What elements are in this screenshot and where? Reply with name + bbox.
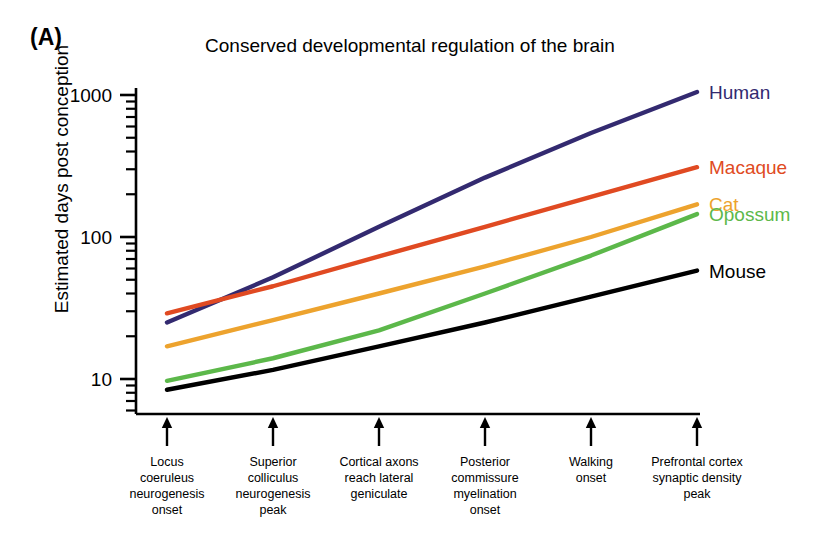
event-arrow-head	[692, 417, 702, 428]
series-label-macaque: Macaque	[709, 157, 787, 178]
event-arrow-head	[162, 417, 172, 428]
chart-plot-area: 101001000 HumanMacaqueCatOpossumMouse Lo…	[0, 0, 826, 548]
series-line-cat	[167, 204, 697, 346]
event-arrow-head	[374, 417, 384, 428]
event-label: Posteriorcommissuremyelinationonset	[451, 455, 518, 517]
y-axis-tick-label: 1000	[70, 85, 112, 106]
y-axis-tick-label: 100	[80, 227, 112, 248]
event-arrow-head	[268, 417, 278, 428]
x-axis-event-labels: LocuscoeruleusneurogenesisonsetSuperiorc…	[129, 455, 743, 517]
event-label: Superiorcolliculusneurogenesispeak	[235, 455, 310, 517]
event-label: Prefrontal cortexsynaptic densitypeak	[651, 455, 743, 501]
series-label-mouse: Mouse	[709, 261, 766, 282]
event-arrow-head	[480, 417, 490, 428]
event-label: Walkingonset	[569, 455, 613, 485]
series-label-human: Human	[709, 82, 770, 103]
figure-panel-a: (A) Conserved developmental regulation o…	[0, 0, 826, 548]
series-legend-labels: HumanMacaqueCatOpossumMouse	[709, 82, 790, 282]
series-line-opossum	[167, 214, 697, 381]
y-axis-tick-labels: 101001000	[70, 85, 112, 390]
event-label: Cortical axonsreach lateralgeniculate	[339, 455, 418, 501]
data-series-lines	[167, 92, 697, 390]
event-arrow-head	[586, 417, 596, 428]
series-label-opossum: Opossum	[709, 204, 790, 225]
event-label: Locuscoeruleusneurogenesisonset	[129, 455, 204, 517]
y-axis-tick-label: 10	[91, 369, 112, 390]
y-axis-ticks	[120, 95, 136, 411]
x-axis-event-arrows	[162, 417, 702, 446]
